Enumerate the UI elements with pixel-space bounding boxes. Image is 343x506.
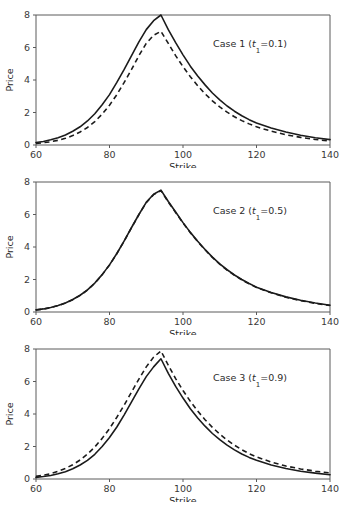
y-tick-label: 8	[24, 9, 30, 20]
x-tick-label: 140	[321, 483, 339, 494]
case-annotation-label: Case 1 (t1=0.1)	[213, 38, 287, 55]
x-tick-label: 100	[174, 483, 192, 494]
y-tick-label: 8	[24, 343, 30, 354]
chart-panel-case-3: 608010012014002468PriceStrikeCase 3 (t1=…	[0, 334, 343, 502]
case-annotation-label: Case 3 (t1=0.9)	[213, 372, 287, 389]
y-tick-label: 0	[24, 473, 30, 484]
y-tick-label: 0	[24, 139, 30, 150]
y-tick-label: 6	[24, 209, 30, 220]
x-tick-label: 140	[321, 149, 339, 160]
y-tick-label: 6	[24, 376, 30, 387]
y-tick-label: 6	[24, 42, 30, 53]
x-tick-label: 80	[103, 149, 115, 160]
y-axis-title: Price	[4, 68, 15, 91]
y-axis-title: Price	[4, 235, 15, 258]
x-tick-label: 60	[30, 316, 42, 327]
annotation-prefix: Case 2 (	[213, 205, 252, 216]
series-line-dashed	[36, 351, 330, 476]
y-tick-label: 8	[24, 176, 30, 187]
x-tick-label: 100	[174, 149, 192, 160]
plot-frame	[36, 182, 330, 312]
y-axis-title: Price	[4, 402, 15, 425]
plot-frame	[36, 15, 330, 145]
y-tick-label: 2	[24, 274, 30, 285]
x-tick-label: 140	[321, 316, 339, 327]
y-tick-label: 4	[24, 408, 30, 419]
annotation-prefix: Case 3 (	[213, 372, 252, 383]
plot-svg-case-1: 608010012014002468PriceStrikeCase 1 (t1=…	[0, 0, 343, 168]
x-tick-label: 120	[247, 316, 265, 327]
x-axis-title: Strike	[169, 495, 196, 502]
x-tick-label: 80	[103, 316, 115, 327]
y-tick-label: 0	[24, 306, 30, 317]
x-tick-label: 60	[30, 149, 42, 160]
series-line-solid	[36, 15, 330, 143]
figure-container: 608010012014002468PriceStrikeCase 1 (t1=…	[0, 0, 343, 506]
chart-panel-case-2: 608010012014002468PriceStrikeCase 2 (t1=…	[0, 167, 343, 335]
annotation-suffix: =0.1)	[260, 38, 287, 49]
y-tick-label: 2	[24, 107, 30, 118]
plot-svg-case-3: 608010012014002468PriceStrikeCase 3 (t1=…	[0, 334, 343, 502]
annotation-suffix: =0.5)	[260, 205, 287, 216]
case-annotation-label: Case 2 (t1=0.5)	[213, 205, 287, 222]
annotation-suffix: =0.9)	[260, 372, 287, 383]
x-tick-label: 120	[247, 483, 265, 494]
plot-svg-case-2: 608010012014002468PriceStrikeCase 2 (t1=…	[0, 167, 343, 335]
annotation-prefix: Case 1 (	[213, 38, 252, 49]
x-tick-label: 80	[103, 483, 115, 494]
x-tick-label: 60	[30, 483, 42, 494]
x-tick-label: 100	[174, 316, 192, 327]
y-tick-label: 2	[24, 441, 30, 452]
y-tick-label: 4	[24, 241, 30, 252]
y-tick-label: 4	[24, 74, 30, 85]
plot-frame	[36, 349, 330, 479]
x-tick-label: 120	[247, 149, 265, 160]
chart-panel-case-1: 608010012014002468PriceStrikeCase 1 (t1=…	[0, 0, 343, 168]
